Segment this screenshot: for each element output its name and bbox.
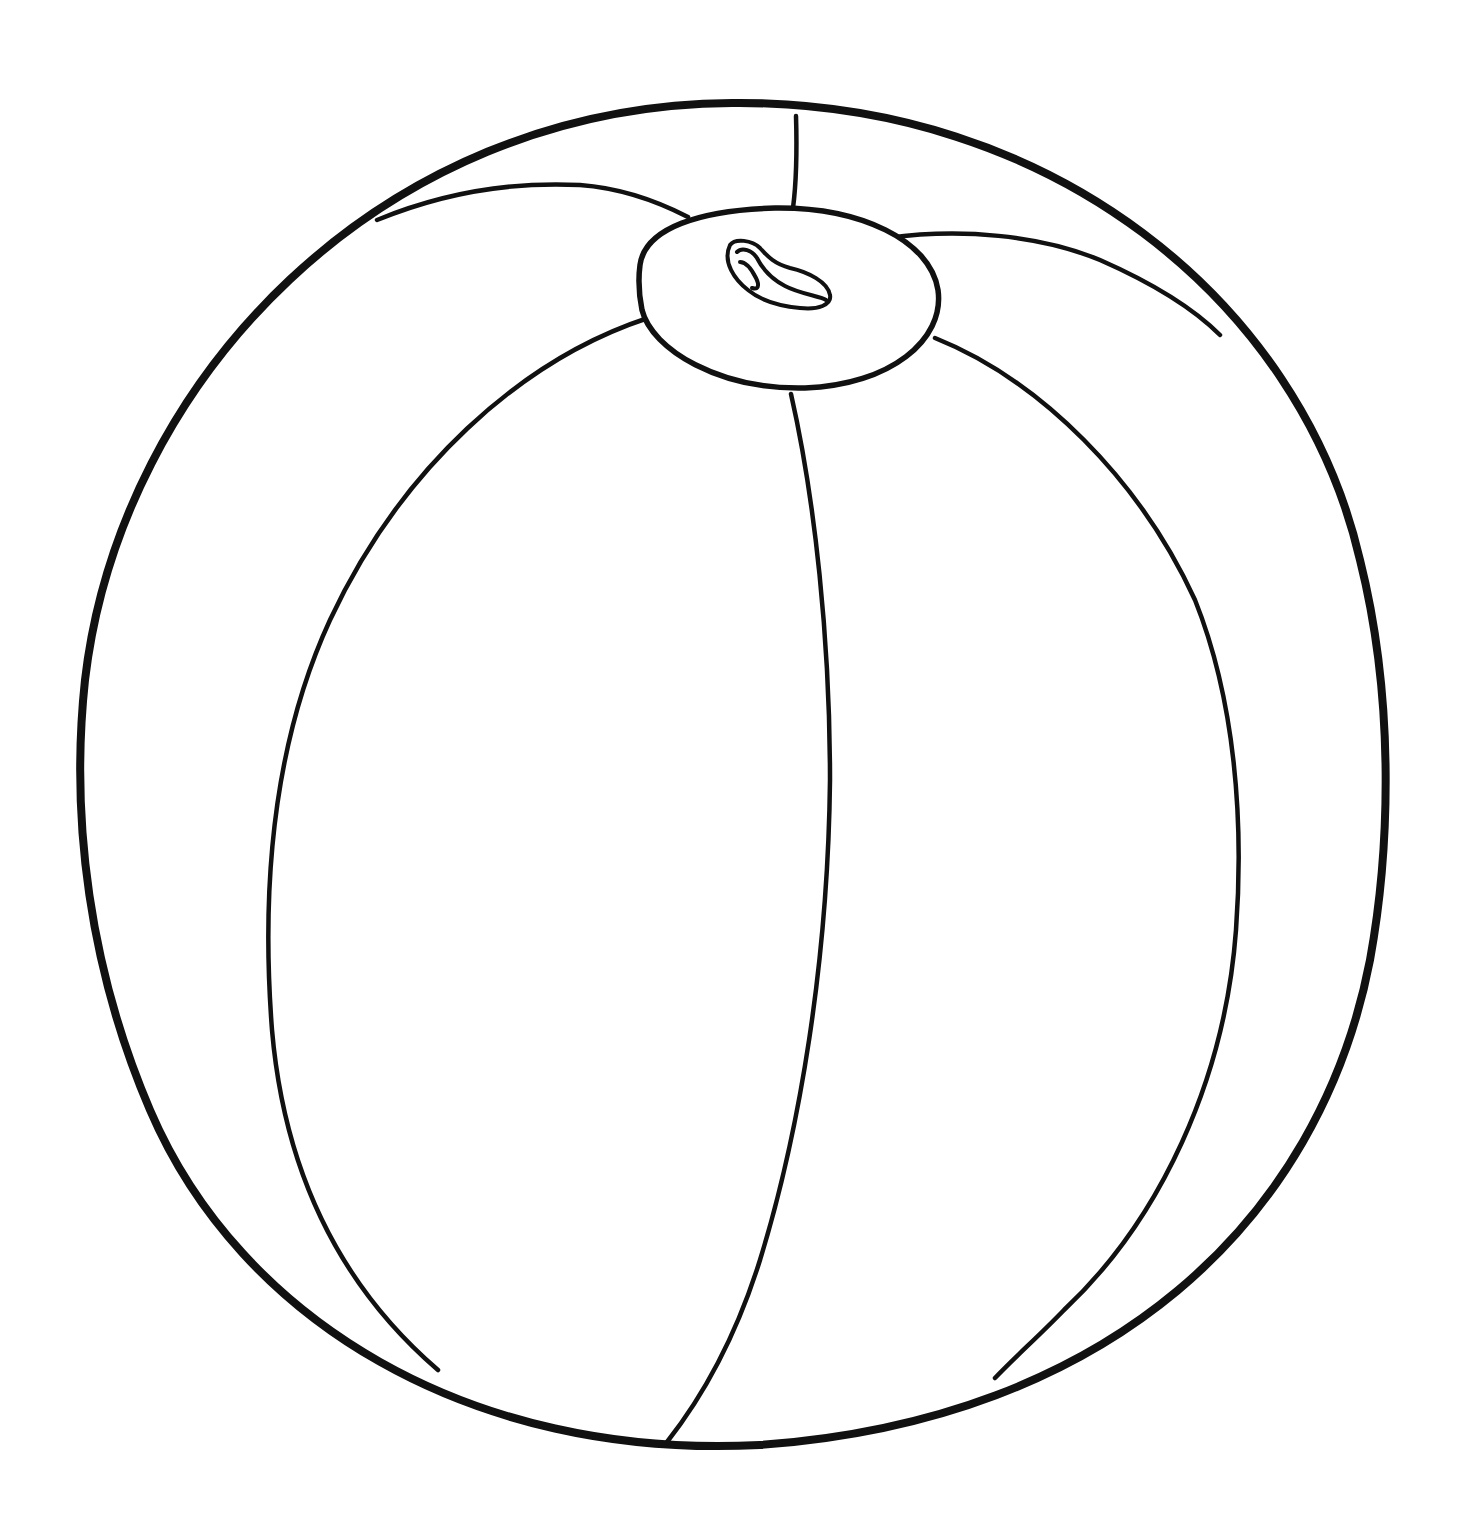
front-seams [268,318,1238,1442]
top-cap [639,208,939,388]
beach-ball-drawing [0,0,1475,1521]
